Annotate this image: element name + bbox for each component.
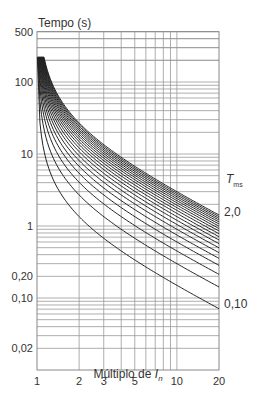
y-tick-label: 10 bbox=[21, 148, 33, 160]
inverse-time-chart: 5001001010,200,100,02 12351020 Tempo (s)… bbox=[0, 0, 258, 398]
x-tick-label: 1 bbox=[34, 375, 40, 387]
y-tick-label: 1 bbox=[27, 220, 33, 232]
curve-label-top: 2,0 bbox=[224, 205, 241, 219]
y-axis-tick-labels: 5001001010,200,100,02 bbox=[12, 26, 33, 355]
x-tick-label: 20 bbox=[213, 375, 225, 387]
curve-tms-0-2 bbox=[38, 57, 219, 287]
curve-family-label: Tms bbox=[226, 172, 243, 188]
grid-lines bbox=[37, 32, 219, 370]
curve-tms-0-6 bbox=[39, 57, 219, 252]
y-tick-label: 100 bbox=[15, 76, 33, 88]
y-tick-label: 500 bbox=[15, 26, 33, 38]
curve-tms-0-9 bbox=[40, 57, 219, 240]
curve-label-bottom: 0,10 bbox=[224, 297, 248, 311]
y-axis-label: Tempo (s) bbox=[38, 16, 91, 30]
y-tick-label: 0,10 bbox=[12, 292, 33, 304]
x-tick-label: 10 bbox=[171, 375, 183, 387]
plot-frame bbox=[37, 32, 219, 370]
x-tick-label: 2 bbox=[76, 375, 82, 387]
y-tick-label: 0,02 bbox=[12, 342, 33, 354]
x-axis-label: Múltiplo de In bbox=[93, 367, 163, 383]
y-tick-label: 0,20 bbox=[12, 270, 33, 282]
